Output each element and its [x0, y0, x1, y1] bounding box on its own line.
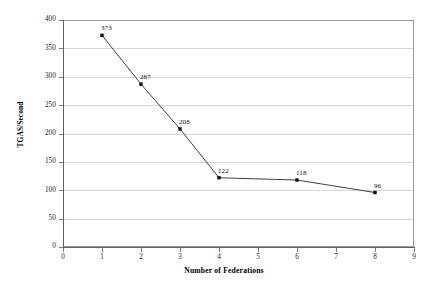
- gridline: [64, 134, 413, 135]
- y-tick-mark: [59, 20, 63, 21]
- data-point-label: 373: [101, 25, 112, 32]
- y-tick-mark: [59, 162, 63, 163]
- x-axis-line: [63, 247, 415, 248]
- data-point-label: 287: [140, 74, 151, 81]
- gridline: [64, 162, 413, 163]
- data-point-label: 122: [218, 168, 229, 175]
- y-tick-label: 0: [26, 243, 56, 250]
- x-tick-label: 0: [53, 254, 73, 261]
- x-tick-label: 6: [287, 254, 307, 261]
- y-tick-label: 400: [26, 16, 56, 23]
- x-tick-label: 8: [365, 254, 385, 261]
- x-tick-label: 7: [326, 254, 346, 261]
- x-tick-mark: [219, 248, 220, 252]
- x-tick-label: 9: [404, 254, 424, 261]
- y-tick-label: 100: [26, 187, 56, 194]
- gridline: [64, 219, 413, 220]
- y-tick-label: 50: [26, 215, 56, 222]
- y-tick-mark: [59, 105, 63, 106]
- x-tick-mark: [258, 248, 259, 252]
- x-axis-title: Number of Federations: [0, 266, 448, 275]
- y-tick-label: 300: [26, 73, 56, 80]
- data-point-label: 118: [296, 170, 307, 177]
- data-point-label: 96: [374, 183, 381, 190]
- x-tick-mark: [141, 248, 142, 252]
- x-tick-mark: [336, 248, 337, 252]
- x-tick-label: 5: [248, 254, 268, 261]
- gridline: [64, 48, 413, 49]
- y-tick-label: 200: [26, 130, 56, 137]
- data-point-label: 208: [179, 119, 190, 126]
- x-tick-label: 2: [131, 254, 151, 261]
- x-tick-mark: [414, 248, 415, 252]
- x-tick-mark: [102, 248, 103, 252]
- y-tick-label: 350: [26, 45, 56, 52]
- y-tick-label: 150: [26, 158, 56, 165]
- x-tick-mark: [180, 248, 181, 252]
- gridline: [64, 190, 413, 191]
- x-tick-label: 4: [209, 254, 229, 261]
- x-tick-mark: [297, 248, 298, 252]
- y-axis-title: TGAS/Second: [16, 75, 25, 175]
- y-tick-label: 250: [26, 102, 56, 109]
- x-tick-mark: [63, 248, 64, 252]
- gridline: [64, 77, 413, 78]
- y-tick-mark: [59, 190, 63, 191]
- gridline: [64, 105, 413, 106]
- y-tick-mark: [59, 219, 63, 220]
- y-tick-mark: [59, 48, 63, 49]
- plot-area: [63, 20, 414, 247]
- x-tick-label: 3: [170, 254, 190, 261]
- y-axis-line: [63, 20, 64, 248]
- x-tick-label: 1: [92, 254, 112, 261]
- y-tick-mark: [59, 134, 63, 135]
- chart-container: 050100150200250300350400 0123456789 TGAS…: [0, 0, 448, 285]
- y-tick-mark: [59, 77, 63, 78]
- x-tick-mark: [375, 248, 376, 252]
